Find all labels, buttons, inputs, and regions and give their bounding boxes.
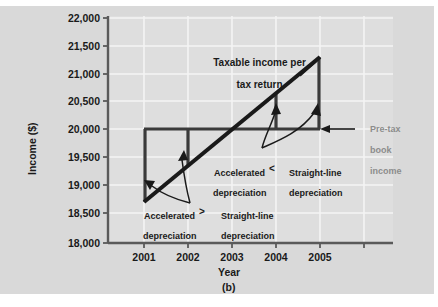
x-tick-label-2003: 2003 xyxy=(210,251,254,263)
lower-straight-line2: depreciation xyxy=(221,231,275,241)
lower-straight-line1: Straight-line xyxy=(221,211,274,221)
y-axis-title: Income ($) xyxy=(26,122,38,175)
lower-accel-line2: depreciation xyxy=(143,231,197,241)
y-tick-label-21500: 21,500 xyxy=(44,40,100,52)
taxable-income-label: Taxable income per tax return xyxy=(196,46,312,101)
y-tick-label-20000: 20,000 xyxy=(44,123,100,135)
lower-comparison-right: Straight-line depreciation xyxy=(211,201,275,251)
pre-tax-book-income-label: Pre-tax book income xyxy=(360,113,402,187)
lower-comparison-operator: > xyxy=(199,206,205,217)
x-tick-label-2005: 2005 xyxy=(298,251,342,263)
taxable-income-label-line2: tax return xyxy=(237,79,283,90)
x-tick-label-2002: 2002 xyxy=(166,251,210,263)
y-tick-label-18500: 18,500 xyxy=(44,207,100,219)
y-tick-label-21000: 21,000 xyxy=(44,68,100,80)
x-axis-title: Year xyxy=(218,266,240,278)
pre-tax-label-line1: Pre-tax xyxy=(370,124,401,134)
y-tick-label-20500: 20,500 xyxy=(44,95,100,107)
x-tick-label-2004: 2004 xyxy=(254,251,298,263)
upper-comparison-operator: < xyxy=(269,163,275,174)
lower-comparison-left: Accelerated depreciation xyxy=(133,201,195,251)
x-tick-label-2001: 2001 xyxy=(122,251,166,263)
upper-straight-line1: Straight-line xyxy=(289,168,342,178)
upper-comparison-right: Straight-line depreciation xyxy=(279,158,343,208)
upper-accel-line1: Accelerated xyxy=(214,168,265,178)
pre-tax-label-line2: book xyxy=(370,145,392,155)
upper-straight-line2: depreciation xyxy=(289,188,343,198)
taxable-income-label-line1: Taxable income per xyxy=(213,57,306,68)
y-tick-label-22000: 22,000 xyxy=(44,12,100,24)
pre-tax-label-line3: income xyxy=(370,166,402,176)
y-tick-label-18000: 18,000 xyxy=(44,237,100,249)
figure-caption: (b) xyxy=(222,281,235,293)
upper-accel-line2: depreciation xyxy=(213,188,267,198)
lower-accel-line1: Accelerated xyxy=(144,211,195,221)
y-tick-label-19500: 19,500 xyxy=(44,151,100,163)
y-tick-label-19000: 19,000 xyxy=(44,179,100,191)
figure-container: 22,000 21,500 21,000 20,500 20,000 19,50… xyxy=(0,0,438,307)
